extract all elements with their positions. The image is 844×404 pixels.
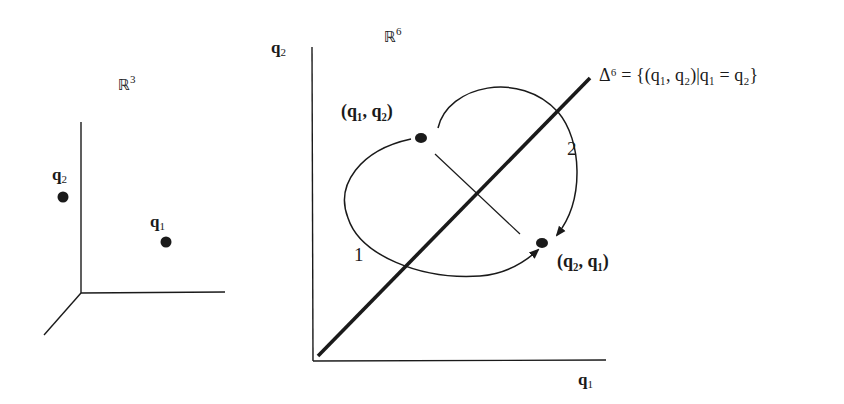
- point-q1q2: [415, 133, 427, 143]
- point-q1: [161, 237, 172, 248]
- point-q2: [58, 192, 69, 203]
- left-axes: [44, 122, 225, 335]
- path-2-label: 2: [567, 139, 577, 158]
- right-axes: [312, 47, 606, 361]
- diagonal-label: Δ⁶ = {(q₁, q₂)|q₁ = q₂}: [599, 66, 758, 84]
- q2-label: q2: [52, 166, 67, 185]
- space-r6-label: ℝ6: [384, 26, 401, 45]
- path-1-label: 1: [354, 245, 364, 264]
- x-axis-label: q1: [578, 371, 593, 390]
- y-axis-label: q2: [271, 39, 286, 58]
- point-b-label: (q₂, q₁): [557, 252, 609, 270]
- space-r3-label: ℝ3: [118, 74, 135, 93]
- point-q2q1: [536, 238, 548, 248]
- diagram-canvas: [0, 0, 844, 404]
- q1-label: q1: [150, 213, 165, 232]
- point-a-label: (q₁, q₂): [341, 102, 393, 120]
